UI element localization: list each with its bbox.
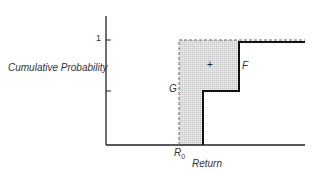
y-tick-label-1: 1 (96, 33, 101, 43)
x-tick-label-r0: R0 (174, 147, 185, 160)
plus-marker: + (207, 59, 213, 70)
chart-plot: + (0, 0, 318, 173)
curve-f-label: F (242, 60, 248, 71)
shaded-region (179, 40, 239, 145)
y-axis-label: Cumulative Probability (8, 62, 108, 73)
curve-g-label: G (169, 83, 177, 94)
chart-container: + Cumulative Probability 1 G F R0 Return (0, 0, 318, 173)
x-axis-label: Return (192, 158, 222, 169)
